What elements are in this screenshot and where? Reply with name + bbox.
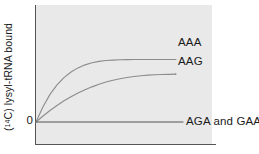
curve-label-aaa: AAA [178,36,201,48]
curves-layer [0,0,259,154]
curve-aaa [36,59,176,122]
figure-container: (14C) lysyl-tRNA bound 0 AAA AAG AGA and… [0,0,259,154]
curve-label-aag: AAG [178,55,203,67]
curve-aag [36,74,176,122]
curve-label-aga-and-gaa: AGA and GAA [186,115,259,127]
